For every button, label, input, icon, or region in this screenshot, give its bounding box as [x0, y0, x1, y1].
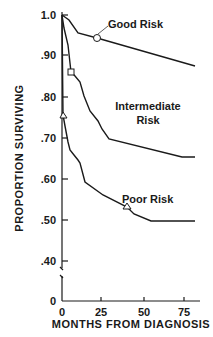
- intermediate-label-line2: Risk: [136, 114, 160, 126]
- intermediate-label-line1: Intermediate: [115, 100, 180, 112]
- x-axis-title: MONTHS FROM DIAGNOSIS: [52, 318, 210, 330]
- x-axis: [62, 297, 200, 301]
- good-risk-label: Good Risk: [108, 18, 164, 30]
- triangle-marker-icon: [60, 112, 67, 118]
- y-tick-0.50: .50: [41, 214, 56, 226]
- x-tick-0: 0: [59, 306, 65, 318]
- series-intermediate-risk: Intermediate Risk: [62, 15, 195, 157]
- survival-chart: 1.0 .90 .80 .70 .60 .50 .40 0 0 25 50 75…: [0, 0, 213, 337]
- circle-marker-icon: [94, 35, 101, 42]
- y-tick-0: 0: [50, 295, 56, 307]
- y-tick-labels: 1.0 .90 .80 .70 .60 .50 .40 0: [41, 9, 56, 307]
- x-tick-50: 50: [138, 306, 150, 318]
- square-marker-icon: [68, 69, 74, 75]
- poor-risk-label: Poor Risk: [122, 193, 174, 205]
- x-tick-25: 25: [95, 306, 107, 318]
- x-tick-labels: 0 25 50 75: [59, 306, 190, 318]
- series-poor-risk: Poor Risk: [60, 15, 195, 221]
- x-tick-75: 75: [178, 306, 190, 318]
- y-tick-0.80: .80: [41, 91, 56, 103]
- series-good-risk: Good Risk: [62, 15, 195, 66]
- y-axis-title: PROPORTION SURVIVING: [13, 84, 25, 231]
- y-tick-0.40: .40: [41, 255, 56, 267]
- y-tick-0.90: .90: [41, 49, 56, 61]
- y-tick-0.70: .70: [41, 132, 56, 144]
- y-tick-1.0: 1.0: [41, 9, 56, 21]
- y-tick-0.60: .60: [41, 173, 56, 185]
- y-axis: [60, 12, 68, 301]
